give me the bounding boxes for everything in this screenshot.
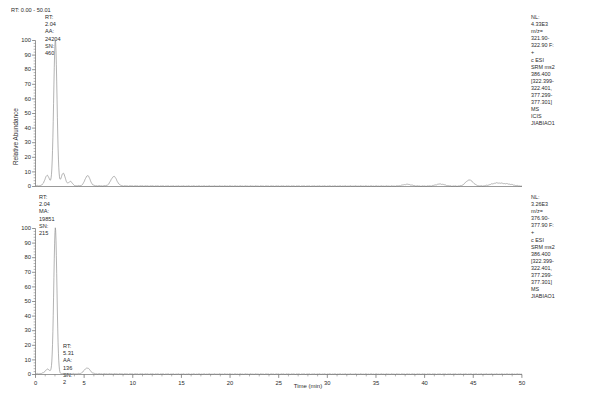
y-tick-bottom-100: 100: [8, 225, 31, 231]
y-tick-top-80: 80: [8, 66, 31, 72]
y-tick-bottom-80: 80: [8, 254, 31, 260]
y-tick-top-20: 20: [8, 154, 31, 160]
x-tick-50: 50: [508, 380, 536, 386]
y-tick-top-10: 10: [8, 169, 31, 175]
y-tick-bottom-90: 90: [8, 240, 31, 246]
y-tick-top-60: 60: [8, 96, 31, 102]
y-tick-bottom-10: 10: [8, 357, 31, 363]
y-tick-top-0: 0: [8, 183, 31, 189]
axis-svg: [0, 0, 616, 400]
x-tick-15: 15: [167, 380, 195, 386]
y-tick-top-70: 70: [8, 81, 31, 87]
y-tick-top-90: 90: [8, 52, 31, 58]
y-tick-bottom-50: 50: [8, 298, 31, 304]
y-tick-top-100: 100: [8, 37, 31, 43]
y-tick-bottom-40: 40: [8, 313, 31, 319]
chromatogram-viewer: RT: 0.00 - 50.01 Relative Abundance RT: …: [0, 0, 616, 400]
x-tick-5: 5: [70, 380, 98, 386]
x-tick-45: 45: [459, 380, 487, 386]
y-tick-top-30: 30: [8, 139, 31, 145]
y-tick-bottom-20: 20: [8, 342, 31, 348]
x-tick-20: 20: [216, 380, 244, 386]
x-tick-0: 0: [22, 380, 50, 386]
x-tick-40: 40: [411, 380, 439, 386]
x-tick-10: 10: [119, 380, 147, 386]
x-tick-35: 35: [362, 380, 390, 386]
y-tick-top-40: 40: [8, 125, 31, 131]
y-tick-bottom-0: 0: [8, 371, 31, 377]
y-tick-bottom-70: 70: [8, 269, 31, 275]
y-tick-top-50: 50: [8, 110, 31, 116]
x-tick-25: 25: [265, 380, 293, 386]
y-tick-bottom-60: 60: [8, 284, 31, 290]
x-tick-30: 30: [313, 380, 341, 386]
y-tick-bottom-30: 30: [8, 327, 31, 333]
